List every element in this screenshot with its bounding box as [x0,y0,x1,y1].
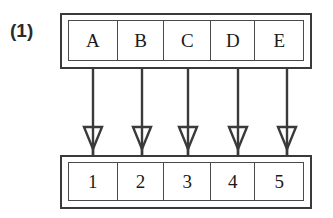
letter-cell-c: C [164,21,211,60]
letter-cell-b: B [118,21,165,60]
letter-cell-d: D [211,21,255,60]
letters-row: A B C D E [68,20,304,61]
arrow-head-icon-a-to-1 [84,127,102,149]
letter-cell-a: A [69,21,118,60]
letters-row-frame: A B C D E [60,13,312,69]
number-cell-5: 5 [255,163,303,200]
arrows-group [84,69,296,155]
number-cell-4: 4 [211,163,255,200]
figure-number-label: (1) [10,20,56,42]
number-cell-3: 3 [164,163,211,200]
number-cell-2: 2 [118,163,165,200]
arrow-head-icon-c-to-3 [179,127,197,149]
arrow-head-icon-b-to-2 [133,127,151,149]
arrow-head-icon-d-to-4 [229,127,247,149]
numbers-row-frame: 1 2 3 4 5 [60,155,312,209]
numbers-row: 1 2 3 4 5 [68,162,304,201]
mapping-diagram-figure: (1) A B C D E 1 2 3 4 5 [0,0,333,218]
number-cell-1: 1 [69,163,118,200]
letter-cell-e: E [255,21,303,60]
arrow-head-icon-e-to-5 [278,127,296,149]
